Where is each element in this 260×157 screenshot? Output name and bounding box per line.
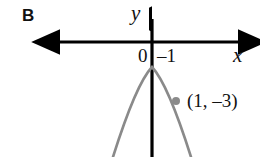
tick-label-negative-one: –1 xyxy=(157,46,176,65)
point-coordinate-label: (1, –3) xyxy=(187,91,238,110)
y-axis-label: y xyxy=(131,3,140,24)
figure-panel: B y x 0 –1 (1, –3) xyxy=(0,0,260,157)
marked-point-dot xyxy=(172,97,180,105)
x-axis-label: x xyxy=(233,45,242,66)
panel-label: B xyxy=(22,7,34,24)
graph-canvas xyxy=(0,0,260,157)
origin-label: 0 xyxy=(138,46,148,65)
